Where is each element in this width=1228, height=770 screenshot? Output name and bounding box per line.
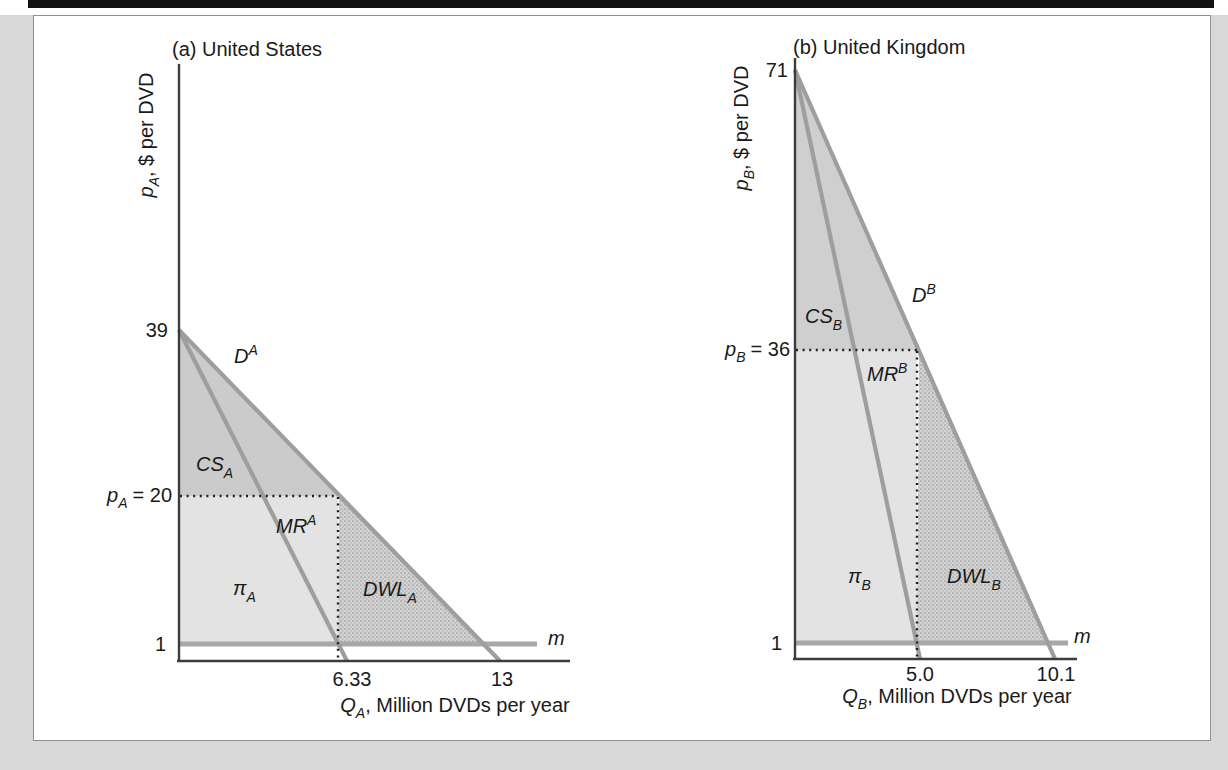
panel-a-y-axis-label: pA, $ per DVD [135,73,162,199]
panel-b-y-axis-label: pB, $ per DVD [730,66,757,192]
panel-a-demand-label: DA [234,342,258,367]
panel-b-tick-71: 71 [766,59,788,81]
panel-b-mc-label: m [1074,625,1091,647]
panel-a-x-axis-label: QA, Million DVDs per year [340,694,570,721]
panel-b-tick-1: 1 [771,632,782,654]
panel-b-demand-label: DB [912,281,936,306]
panel-b-chart: (b) United Kingdom pB, $ per DVD QB, Mil… [724,36,1091,712]
panel-a-mc-label: m [548,627,565,649]
figure-page: (a) United States pA, $ per DVD QA, Mill… [0,0,1228,770]
panel-b-tick-monopoly-quantity: 5.0 [906,663,934,685]
panel-a-tick-monopoly-quantity: 6.33 [333,668,372,690]
panel-a-price-tick-label: pA= 20 [106,484,172,511]
panel-b-price-tick-label: pB= 36 [724,338,790,365]
panel-b-tick-competitive-quantity: 10.1 [1037,663,1076,685]
panel-a-tick-competitive-quantity: 13 [491,668,513,690]
panel-a-tick-39: 39 [146,319,168,341]
panel-b-profit-region [795,350,917,643]
panel-a-chart: (a) United States pA, $ per DVD QA, Mill… [106,38,570,721]
dual-panel-chart: (a) United States pA, $ per DVD QA, Mill… [0,0,1228,770]
panel-b-title: (b) United Kingdom [793,36,965,58]
panel-a-title: (a) United States [172,38,322,60]
panel-a-tick-1: 1 [155,633,166,655]
panel-b-x-axis-label: QB, Million DVDs per year [842,685,1072,712]
